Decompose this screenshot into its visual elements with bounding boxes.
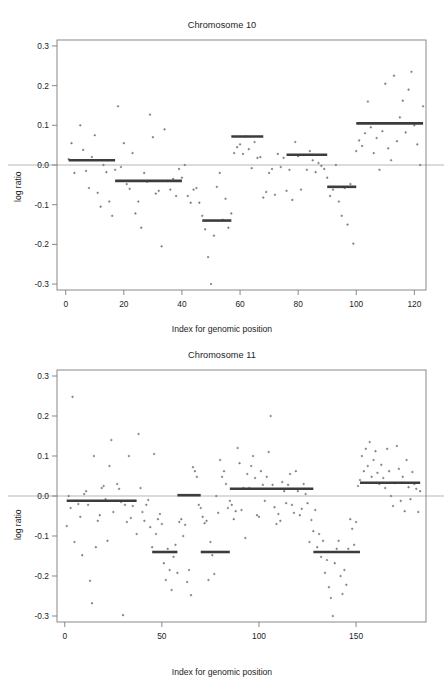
svg-text:-0.3: -0.3 <box>35 611 50 621</box>
svg-text:-0.3: -0.3 <box>35 279 50 289</box>
page-header <box>0 0 444 12</box>
svg-text:0: 0 <box>63 299 68 309</box>
svg-text:80: 80 <box>293 299 303 309</box>
svg-text:0.1: 0.1 <box>37 120 49 130</box>
svg-text:-0.2: -0.2 <box>35 571 50 581</box>
svg-text:60: 60 <box>235 299 245 309</box>
svg-text:50: 50 <box>157 631 167 641</box>
scatter-plot-svg: -0.3-0.2-0.10.00.10.20.3050100150 <box>0 342 444 685</box>
svg-text:100: 100 <box>252 631 266 641</box>
svg-text:-0.2: -0.2 <box>35 239 50 249</box>
y-axis-title: log ratio <box>13 171 23 202</box>
svg-text:-0.1: -0.1 <box>35 200 50 210</box>
svg-text:150: 150 <box>349 631 363 641</box>
svg-text:0.0: 0.0 <box>37 160 49 170</box>
chart-panel-chromosome-11: Chromosome 11 -0.3-0.2-0.10.00.10.20.305… <box>0 342 444 685</box>
svg-text:0.2: 0.2 <box>37 411 49 421</box>
svg-text:0.1: 0.1 <box>37 451 49 461</box>
svg-text:0.2: 0.2 <box>37 81 49 91</box>
svg-text:20: 20 <box>119 299 129 309</box>
plot-area: -0.3-0.2-0.10.00.10.20.3050100150 <box>0 342 444 685</box>
svg-text:40: 40 <box>177 299 187 309</box>
x-axis-title: Index for genomic position <box>0 667 444 677</box>
svg-text:-0.1: -0.1 <box>35 531 50 541</box>
scatter-plot-svg: -0.3-0.2-0.10.00.10.20.3020406080100120 <box>0 12 444 342</box>
x-axis-title: Index for genomic position <box>0 324 444 334</box>
svg-text:100: 100 <box>349 299 363 309</box>
y-axis-title: log ratio <box>13 509 23 540</box>
chart-panel-chromosome-10: Chromosome 10 -0.3-0.2-0.10.00.10.20.302… <box>0 12 444 342</box>
svg-text:0.3: 0.3 <box>37 371 49 381</box>
plot-area: -0.3-0.2-0.10.00.10.20.3020406080100120 <box>0 12 444 342</box>
svg-text:0.3: 0.3 <box>37 41 49 51</box>
svg-text:120: 120 <box>407 299 421 309</box>
svg-text:0: 0 <box>62 631 67 641</box>
svg-text:0.0: 0.0 <box>37 491 49 501</box>
